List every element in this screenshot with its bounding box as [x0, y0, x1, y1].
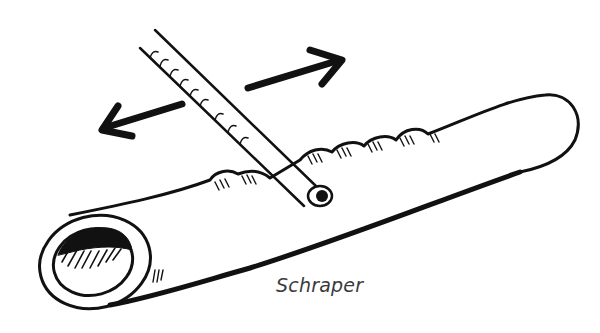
motion-arrow-right: [248, 50, 342, 88]
illustration-canvas: Schraper: [0, 0, 600, 333]
scraper-stick: [140, 30, 332, 206]
figure-caption: Schraper: [276, 274, 363, 296]
bump-hatches: [215, 134, 439, 190]
motion-arrow-left: [102, 104, 182, 136]
